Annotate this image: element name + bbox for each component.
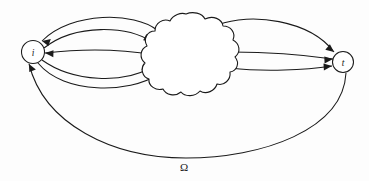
network-cloud — [141, 13, 239, 96]
diagram-svg: i t Ω — [0, 0, 369, 181]
edge-cloud-to-t-middle — [232, 52, 333, 63]
edge-cloud-to-i-upper — [42, 17, 157, 46]
omega-label: Ω — [180, 161, 188, 173]
edge-cloud-to-i-middle — [45, 50, 154, 57]
node-t[interactable]: t — [333, 52, 354, 73]
node-i[interactable]: i — [22, 41, 45, 64]
arrowhead-into-t-lower — [324, 64, 333, 71]
node-i-label: i — [32, 48, 35, 58]
arrowhead-into-t-top — [325, 44, 334, 52]
node-t-label: t — [342, 58, 345, 68]
edge-i-to-cloud-outer-lower — [38, 63, 157, 88]
edge-i-to-cloud-lower — [42, 60, 150, 78]
arrowhead-into-i-bottom — [29, 64, 36, 72]
figure-canvas: i t Ω — [0, 0, 369, 181]
edge-i-to-cloud-upper — [44, 30, 152, 48]
edge-cloud-to-t-lower — [230, 64, 332, 71]
arrowhead-into-t-middle — [324, 56, 333, 63]
arrowhead-into-i-middle — [45, 50, 54, 57]
